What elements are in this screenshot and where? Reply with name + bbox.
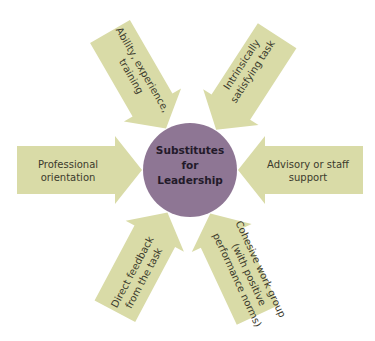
label-professional: Professional orientation bbox=[18, 158, 118, 184]
label-line: orientation bbox=[18, 171, 118, 184]
label-advisory: Advisory or staff support bbox=[258, 158, 358, 184]
label-line: Advisory or staff bbox=[258, 158, 358, 171]
label-line: Professional bbox=[18, 158, 118, 171]
center-line: Leadership bbox=[144, 173, 236, 188]
center-line: for bbox=[144, 158, 236, 173]
label-line: support bbox=[258, 171, 358, 184]
center-line: Substitutes bbox=[144, 143, 236, 158]
center-label: Substitutes for Leadership bbox=[144, 143, 236, 188]
